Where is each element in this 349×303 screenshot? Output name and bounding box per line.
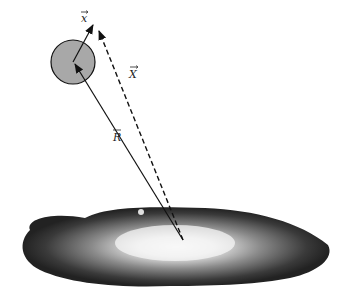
label-r-text: R	[112, 131, 121, 144]
diagram-canvas: x X R	[0, 0, 349, 303]
label-r: R	[112, 130, 121, 144]
galaxy	[23, 207, 330, 286]
label-x: x	[81, 11, 88, 26]
galaxy-bright-spot	[138, 209, 144, 215]
galaxy-core	[115, 225, 235, 261]
label-x-text: x	[81, 12, 88, 25]
label-big-x-text: X	[128, 68, 138, 81]
label-big-x: X	[128, 66, 138, 82]
